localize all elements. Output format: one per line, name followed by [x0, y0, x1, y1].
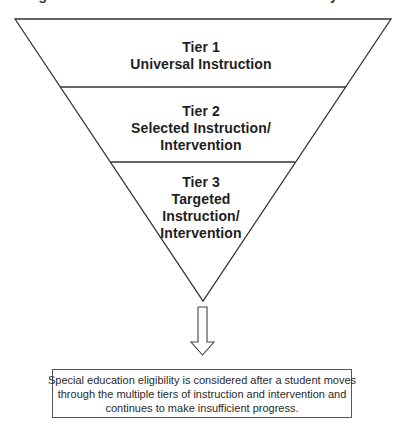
note-line-3: continues to make insufficient progress.	[105, 401, 298, 415]
tier-2-description-line-1: Selected Instruction/	[0, 120, 402, 137]
tier-3-description-line-3: Intervention	[0, 225, 402, 242]
hollow-down-arrow-icon	[191, 307, 214, 355]
tier-3-description-line-2: Instruction/	[0, 208, 402, 225]
tier-2-label: Tier 2 Selected Instruction/ Interventio…	[0, 103, 402, 154]
note-line-2: through the multiple tiers of instructio…	[58, 387, 347, 401]
tier-1-label: Tier 1 Universal Instruction	[0, 39, 402, 73]
tier-1-name: Tier 1	[0, 39, 402, 56]
note-line-1: Special education eligibility is conside…	[48, 373, 356, 387]
tier-3-label: Tier 3 Targeted Instruction/ Interventio…	[0, 174, 402, 242]
tier-1-description: Universal Instruction	[0, 56, 402, 73]
cut-off-title: Figure: Tiers of Instruction and Interve…	[0, 0, 402, 3]
tier-2-name: Tier 2	[0, 103, 402, 120]
tier-3-description-line-1: Targeted	[0, 191, 402, 208]
tier-2-description-line-2: Intervention	[0, 137, 402, 154]
tier-3-name: Tier 3	[0, 174, 402, 191]
eligibility-note-box: Special education eligibility is conside…	[52, 369, 352, 418]
